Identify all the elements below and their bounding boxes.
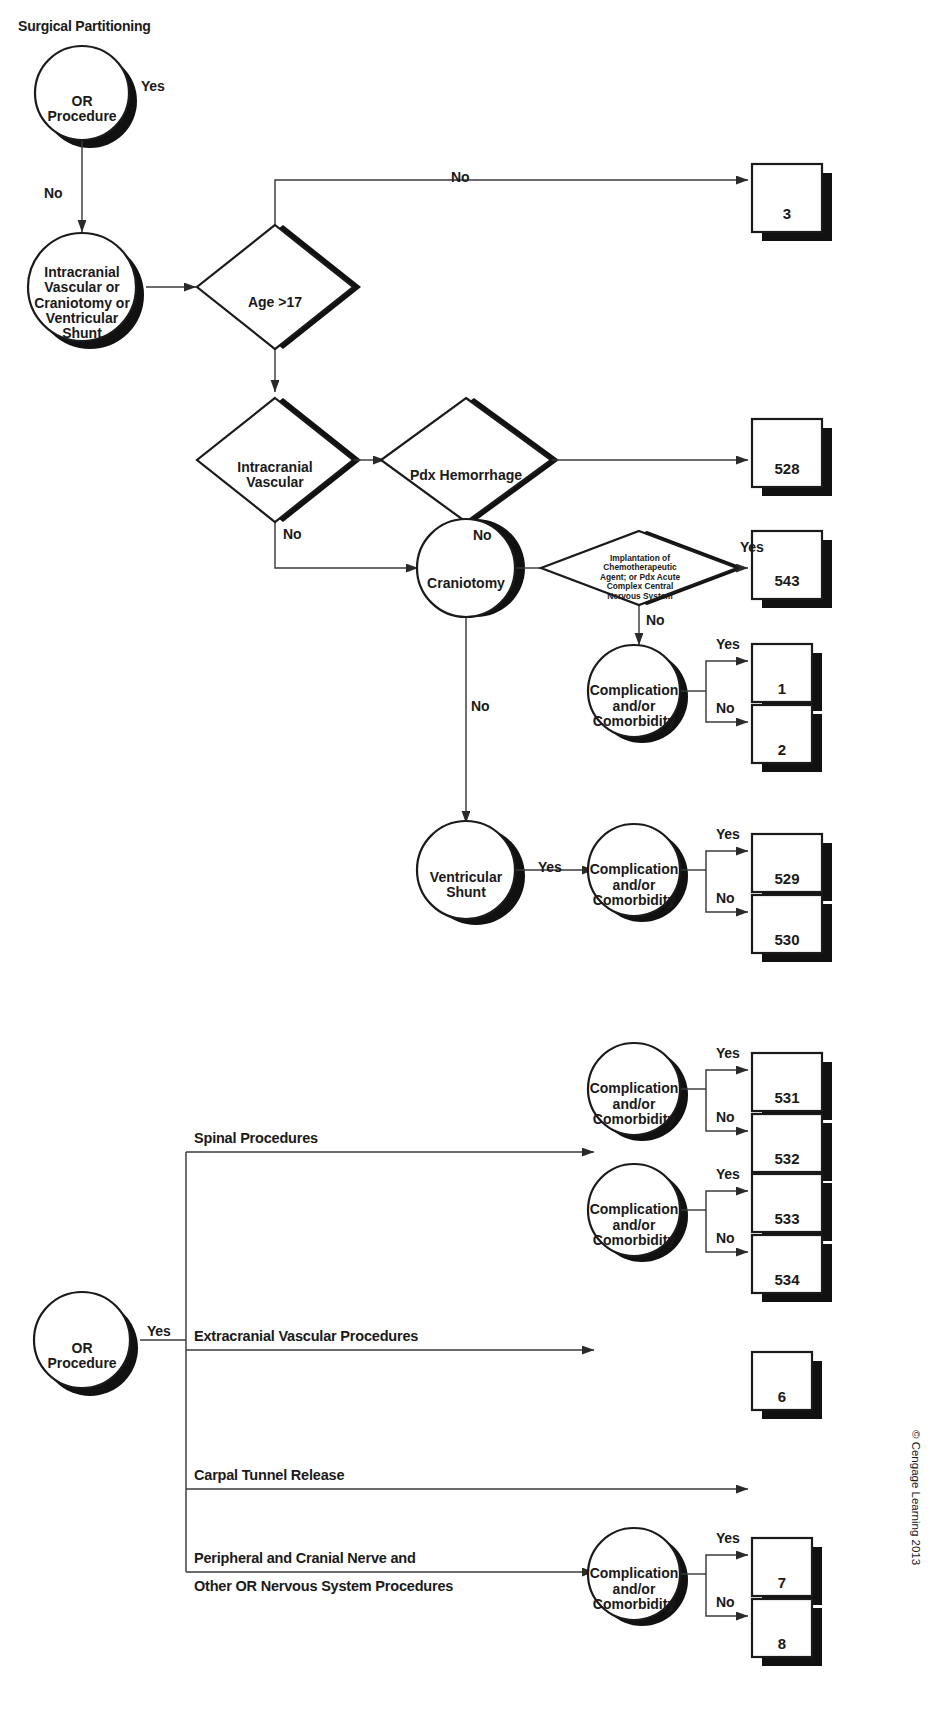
edge-label-iv-no: No [283,526,301,542]
node-complication-1 [588,645,680,737]
node-age-gt-17 [197,225,353,349]
page-title: Surgical Partitioning [18,18,151,34]
edge-label-comp-sp-no: No [716,1109,734,1125]
node-ventricular-shunt [417,821,515,919]
branch-label-peripheral-line2: Other OR Nervous System Procedures [194,1578,453,1594]
terminal-box-8 [752,1599,812,1657]
edge-comp2-yes [706,851,748,870]
edge-label-comp-ex-yes: Yes [716,1166,740,1182]
terminal-box-529 [752,834,822,892]
branch-label-peripheral-line1: Peripheral and Cranial Nerve and [194,1550,416,1566]
node-complication-peripheral [588,1528,680,1620]
node-pdx-hemorrhage [381,398,551,522]
node-complication-spinal [588,1043,680,1135]
node-complication-extracranial [588,1164,680,1256]
terminal-box-533 [752,1174,822,1232]
edge-label-or2-yes: Yes [147,1323,171,1339]
edge-comp1-yes [706,661,748,691]
terminal-shape-layer [752,164,822,1657]
edge-label-chemo-no: No [646,612,664,628]
terminal-box-6 [752,1352,812,1410]
node-intracranial-group [28,233,136,341]
terminal-box-7 [752,1538,812,1596]
edge-label-comp-pe-yes: Yes [716,1530,740,1546]
branch-label-extracranial: Extracranial Vascular Procedures [194,1328,418,1344]
edge-label-pdx-no: No [473,527,491,543]
branch-label-carpal: Carpal Tunnel Release [194,1467,344,1483]
terminal-box-534 [752,1235,822,1293]
edge-label-age-no: No [451,169,469,185]
flowchart-canvas: Surgical Partitioning OR Procedure Intra… [0,0,938,1720]
terminal-box-530 [752,895,822,953]
edge-label-chemo-yes: Yes [740,539,764,555]
terminal-box-2 [752,705,812,763]
node-craniotomy [417,519,515,617]
node-or-procedure-top [35,46,129,140]
node-intracranial-vascular [197,398,353,522]
copyright-notice: © Cengage Learning 2013 [910,1430,922,1565]
edge-label-cranio-no: No [471,698,489,714]
terminal-box-531 [752,1053,822,1111]
terminal-box-3 [752,164,822,232]
edge-label-or-yes: Yes [141,78,165,94]
shape-layer [28,46,737,1620]
edge-label-vs-yes: Yes [538,859,562,875]
terminal-box-532 [752,1114,822,1172]
edge-comp-sp-yes [706,1070,748,1089]
edge-label-comp2-yes: Yes [716,826,740,842]
edge-label-comp1-no: No [716,700,734,716]
terminal-box-1 [752,644,812,702]
edge-age-no-to-3 [275,180,748,225]
branch-label-spinal: Spinal Procedures [194,1130,318,1146]
edge-label-comp1-yes: Yes [716,636,740,652]
edge-label-comp-sp-yes: Yes [716,1045,740,1061]
node-complication-2 [588,824,680,916]
flowchart-svg [0,0,938,1720]
terminal-box-528 [752,419,822,487]
edge-comp-ex-yes [706,1191,748,1210]
edge-label-comp-pe-no: No [716,1594,734,1610]
edge-label-comp2-no: No [716,890,734,906]
edge-comp-pe-yes [706,1555,748,1574]
node-or-procedure-bottom [34,1292,130,1388]
edge-label-or-no: No [44,185,62,201]
edge-label-comp-ex-no: No [716,1230,734,1246]
node-chemo-implant [541,531,737,605]
